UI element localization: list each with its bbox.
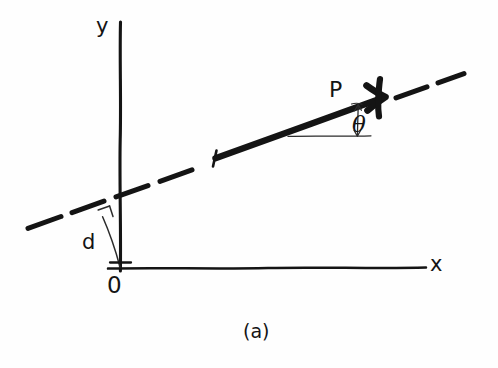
perpendicular-distance-line <box>103 217 120 267</box>
dashed-line-segment <box>72 201 104 213</box>
right-angle-marker <box>98 206 113 217</box>
vector-P-tail-tick <box>213 151 217 167</box>
x-axis-label: x <box>430 254 442 275</box>
figure-caption: (a) <box>243 322 269 341</box>
point-p-label: P <box>329 79 342 101</box>
origin-label: 0 <box>107 274 122 297</box>
diagram-canvas <box>0 0 498 368</box>
angle-theta-label: θ <box>352 113 366 136</box>
dashed-line-segment <box>396 87 427 98</box>
dashed-line-segment <box>160 170 192 181</box>
distance-d-label: d <box>82 232 95 253</box>
y-axis-label: y <box>96 16 108 37</box>
figure-container: y x 0 P θ d (a) <box>0 0 498 368</box>
x-axis-line <box>108 268 426 269</box>
vector-P-arrowhead <box>367 79 386 117</box>
dashed-line-group <box>28 74 464 229</box>
dashed-line-segment <box>438 74 464 83</box>
y-axis-line <box>120 22 121 271</box>
dashed-line-segment <box>28 217 61 229</box>
